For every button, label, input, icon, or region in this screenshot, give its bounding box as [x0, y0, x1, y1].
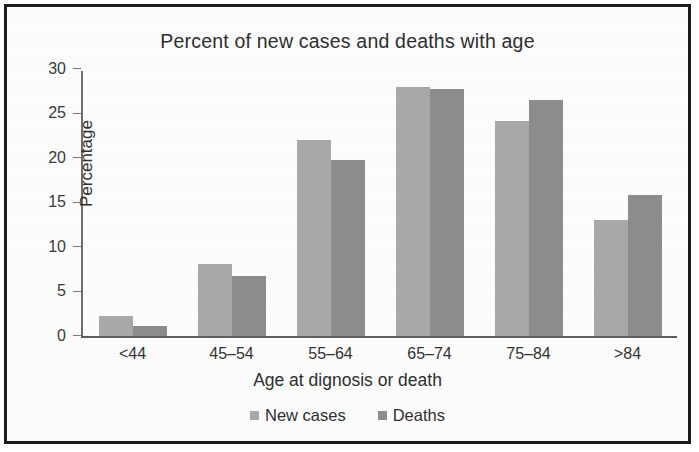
x-axis-tick-label: >84	[578, 345, 677, 363]
y-axis-tick: 10	[73, 246, 81, 247]
legend-swatch-icon	[250, 411, 259, 420]
legend-item: New cases	[250, 406, 346, 425]
bar-group	[578, 67, 677, 336]
bar-group	[479, 67, 578, 336]
bar	[331, 160, 365, 336]
plot-area: Percentage 051015202530	[81, 67, 677, 338]
bar	[198, 264, 232, 336]
x-axis-tick-label: <44	[83, 345, 182, 363]
bar	[396, 87, 430, 336]
bar-group	[281, 67, 380, 336]
legend-label: New cases	[265, 406, 346, 425]
bar	[430, 89, 464, 336]
figure-frame: Percent of new cases and deaths with age…	[4, 4, 691, 444]
legend-item: Deaths	[378, 406, 445, 425]
x-axis-tick-label: 65–74	[380, 345, 479, 363]
chart-legend: New casesDeaths	[7, 406, 688, 425]
bar	[297, 140, 331, 336]
y-axis-tick: 25	[73, 113, 81, 114]
y-axis-tick-label: 25	[48, 104, 66, 122]
bar	[628, 195, 662, 336]
bar	[529, 100, 563, 336]
bar	[99, 316, 133, 336]
bar	[232, 276, 266, 336]
x-axis-title: Age at dignosis or death	[7, 370, 688, 391]
bars-layer	[83, 67, 677, 336]
bar	[594, 220, 628, 336]
bar	[495, 121, 529, 336]
x-axis-line	[81, 336, 677, 338]
y-axis-tick: 30	[73, 68, 81, 69]
bar	[133, 326, 167, 336]
chart-title: Percent of new cases and deaths with age	[7, 30, 688, 53]
y-axis-tick: 0	[73, 335, 81, 336]
y-axis-tick-label: 0	[57, 327, 66, 345]
y-axis-tick-label: 20	[48, 149, 66, 167]
x-axis-tick-labels: <4445–5455–6465–7475–84>84	[83, 345, 677, 363]
bar-group	[182, 67, 281, 336]
x-axis-tick-label: 55–64	[281, 345, 380, 363]
bar-group	[380, 67, 479, 336]
y-axis-tick-label: 15	[48, 193, 66, 211]
bar-group	[83, 67, 182, 336]
y-axis-tick: 20	[73, 157, 81, 158]
y-axis-tick-label: 30	[48, 60, 66, 78]
legend-swatch-icon	[378, 411, 387, 420]
y-axis-tick: 5	[73, 291, 81, 292]
y-axis-tick: 15	[73, 202, 81, 203]
y-axis-tick-label: 5	[57, 282, 66, 300]
x-axis-tick-label: 75–84	[479, 345, 578, 363]
x-axis-tick-label: 45–54	[182, 345, 281, 363]
y-axis-tick-label: 10	[48, 238, 66, 256]
legend-label: Deaths	[393, 406, 445, 425]
